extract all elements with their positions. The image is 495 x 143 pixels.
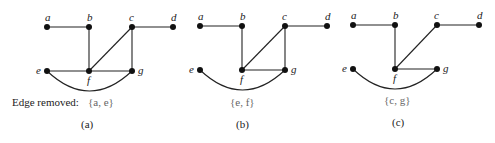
node-label-b: b <box>87 11 93 23</box>
node-label-b: b <box>240 10 246 22</box>
node-g <box>129 68 135 74</box>
node-label-a: a <box>198 10 204 22</box>
node-label-f: f <box>393 72 398 84</box>
node-b <box>392 22 398 28</box>
edge-c-f <box>89 27 132 71</box>
caption-prefix: Edge removed: <box>12 96 79 108</box>
panel-label-a: (a) <box>81 118 94 131</box>
node-label-a: a <box>45 11 51 23</box>
edge-c-f <box>242 26 285 70</box>
node-b <box>86 24 92 30</box>
panel-label-c: (c) <box>392 116 405 129</box>
node-g <box>282 67 288 73</box>
node-label-c: c <box>434 9 439 21</box>
node-c <box>129 24 135 30</box>
graph-panel-a: abcdefg <box>36 11 177 91</box>
node-c <box>434 22 440 28</box>
node-label-f: f <box>240 73 245 85</box>
node-g <box>434 66 440 72</box>
node-e <box>44 68 50 74</box>
graph-panel-b: abcdefg <box>189 10 331 90</box>
node-label-d: d <box>477 9 483 21</box>
node-label-c: c <box>129 11 134 23</box>
node-d <box>476 22 482 28</box>
node-label-f: f <box>87 74 92 86</box>
node-label-b: b <box>393 9 399 21</box>
node-label-g: g <box>291 63 297 75</box>
removed-edge-b: {e, f} <box>230 96 255 108</box>
graph-panel-c: abcdefg <box>342 9 483 89</box>
node-d <box>170 24 176 30</box>
removed-edge-a: {a, e} <box>88 96 114 108</box>
node-label-d: d <box>325 10 331 22</box>
node-a <box>350 22 356 28</box>
node-e <box>350 66 356 72</box>
node-label-a: a <box>351 9 357 21</box>
node-label-e: e <box>36 64 41 76</box>
node-label-e: e <box>189 63 194 75</box>
node-a <box>197 23 203 29</box>
node-c <box>282 23 288 29</box>
removed-edge-c: {c, g} <box>384 94 410 106</box>
node-b <box>239 23 245 29</box>
node-label-c: c <box>282 10 287 22</box>
node-label-e: e <box>342 62 347 74</box>
edge-c-f <box>395 25 437 69</box>
panel-label-b: (b) <box>236 118 249 131</box>
graph-figure: abcdefgabcdefgabcdefg Edge removed: {a, … <box>0 0 495 143</box>
node-a <box>44 24 50 30</box>
node-d <box>324 23 330 29</box>
node-label-g: g <box>443 62 449 74</box>
node-label-g: g <box>138 64 144 76</box>
node-e <box>197 67 203 73</box>
node-label-d: d <box>171 11 177 23</box>
